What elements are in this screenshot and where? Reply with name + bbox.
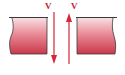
right-block — [76, 18, 117, 55]
left-arrow-label: V — [45, 2, 52, 11]
right-arrow-label: V — [71, 2, 78, 11]
right-velocity-arrow — [66, 13, 72, 64]
left-block — [9, 18, 48, 55]
left-velocity-arrow — [51, 12, 57, 64]
shear-diagram — [0, 0, 125, 75]
